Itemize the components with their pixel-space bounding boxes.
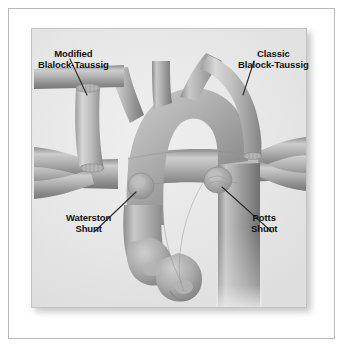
label-classic-blalock-taussig: Classic Blalock-Taussig bbox=[238, 48, 309, 70]
cardiac-chambers bbox=[127, 237, 202, 302]
anatomy-illustration bbox=[32, 29, 307, 308]
left-pulmonary-artery bbox=[34, 147, 118, 199]
label-waterston-line2: Shunt bbox=[66, 223, 111, 234]
figure-root: Modified Blalock-Taussig Classic Blalock… bbox=[0, 0, 343, 347]
label-potts-line1: Potts bbox=[253, 212, 276, 223]
label-classic-bt-line1: Classic bbox=[257, 48, 290, 59]
label-potts-shunt: Potts Shunt bbox=[251, 212, 277, 234]
label-classic-bt-line2: Blalock-Taussig bbox=[238, 59, 309, 70]
modified-blalock-taussig-graft bbox=[75, 84, 104, 172]
potts-shunt-site bbox=[204, 167, 232, 193]
label-waterston-line1: Waterston bbox=[66, 212, 111, 223]
label-waterston-shunt: Waterston Shunt bbox=[66, 212, 111, 234]
label-modified-bt-line2: Blalock-Taussig bbox=[38, 59, 109, 70]
label-modified-bt-line1: Modified bbox=[54, 48, 92, 59]
label-potts-line2: Shunt bbox=[251, 223, 277, 234]
illustration-panel bbox=[31, 28, 307, 308]
waterston-shunt-site bbox=[128, 173, 154, 199]
label-modified-blalock-taussig: Modified Blalock-Taussig bbox=[38, 48, 109, 70]
